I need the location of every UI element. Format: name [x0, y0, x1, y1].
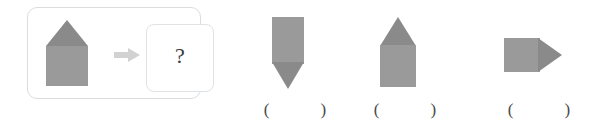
option-b-parentheses[interactable]: ( ) [350, 95, 460, 125]
question-panel: ? [27, 7, 201, 99]
option-c-parentheses[interactable]: ( ) [466, 95, 594, 125]
question-mark-label: ? [147, 25, 213, 91]
option-c[interactable]: ( ) [466, 7, 576, 129]
square-with-rightward-triangle-icon [466, 7, 576, 95]
house-shape-icon [350, 7, 460, 95]
square-with-downward-triangle-icon [240, 7, 350, 95]
right-arrow-icon [114, 48, 140, 62]
house-shape-icon [46, 20, 88, 86]
option-a-parentheses[interactable]: ( ) [240, 95, 350, 125]
answer-placeholder-box[interactable]: ? [146, 24, 214, 92]
option-b[interactable]: ( ) [350, 7, 460, 129]
option-a[interactable]: ( ) [240, 7, 350, 129]
